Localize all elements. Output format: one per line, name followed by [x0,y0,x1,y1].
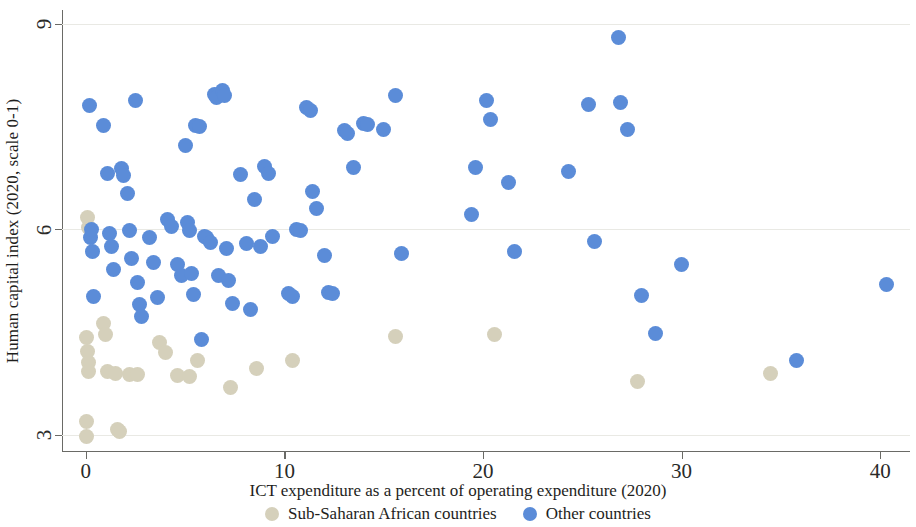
y-axis-tick: 3 [55,435,62,436]
data-point [581,97,596,112]
y-axis-title-text: Human capital index (2020, scale 0-1) [3,99,23,363]
x-axis-title: ICT expenditure as a percent of operatin… [0,481,916,501]
legend-item[interactable]: Sub-Saharan African countries [265,504,497,524]
x-axis-tick-label: 10 [274,461,295,482]
data-point [507,244,522,259]
y-axis-tick-label: 6 [33,225,54,236]
data-point [108,366,123,381]
data-point [192,119,207,134]
data-point [285,289,300,304]
data-point [613,95,628,110]
x-axis-tick-label: 20 [473,461,494,482]
data-point [98,327,113,342]
data-point [293,223,308,238]
x-axis-tick [284,452,285,459]
data-point [394,246,409,261]
data-point [178,138,193,153]
data-point [388,329,403,344]
data-point [134,309,149,324]
data-point [186,287,201,302]
data-point [79,414,94,429]
data-point [96,118,111,133]
data-point [112,424,127,439]
y-axis-tick-label: 3 [33,430,54,441]
legend-item[interactable]: Other countries [523,504,651,524]
data-point [265,229,280,244]
y-axis-tick: 9 [55,24,62,25]
data-point [100,166,115,181]
y-axis-title: Human capital index (2020, scale 0-1) [2,10,24,452]
data-point [611,30,626,45]
data-point [182,223,197,238]
data-point [879,277,894,292]
data-point [249,361,264,376]
data-point [468,160,483,175]
data-point [142,230,157,245]
data-point [587,234,602,249]
x-axis-tick [86,452,87,459]
data-point [81,364,96,379]
data-point [182,369,197,384]
legend-label: Other countries [546,504,651,524]
data-point [194,332,209,347]
data-point [124,251,139,266]
x-axis-tick-label: 30 [671,461,692,482]
data-point [84,222,99,237]
data-point [305,184,320,199]
data-point [325,286,340,301]
data-point [128,93,143,108]
data-point [104,239,119,254]
x-axis-tick [483,452,484,459]
legend-marker-icon [523,507,537,521]
x-axis-tick [682,452,683,459]
data-point [317,248,332,263]
y-axis-tick: 6 [55,229,62,230]
data-point [146,255,161,270]
y-axis-tick-label: 9 [33,19,54,30]
data-point [190,353,205,368]
data-point [303,103,318,118]
gridline [62,435,910,436]
data-point [561,164,576,179]
plot-area: 369 010203040 [62,10,910,452]
data-point [158,345,173,360]
data-point [225,296,240,311]
data-point [164,219,179,234]
legend-label: Sub-Saharan African countries [288,504,497,524]
x-axis-tick [880,452,881,459]
data-point [184,266,199,281]
data-point [309,201,324,216]
legend-marker-icon [265,507,279,521]
chart-legend: Sub-Saharan African countriesOther count… [0,504,916,524]
x-axis-tick-label: 0 [81,461,92,482]
scatter-plot-figure: Human capital index (2020, scale 0-1) 36… [0,0,916,527]
x-axis-title-text: ICT expenditure as a percent of operatin… [250,481,667,500]
data-point [464,207,479,222]
gridline [62,24,910,25]
x-axis-tick-label: 40 [870,461,891,482]
data-point [130,367,145,382]
data-point [106,262,121,277]
